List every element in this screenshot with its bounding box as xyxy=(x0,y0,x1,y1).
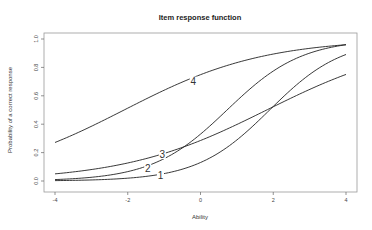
curve-label-1: 1 xyxy=(158,170,164,181)
curve-item-3 xyxy=(55,74,346,173)
x-tick-label: -4 xyxy=(53,197,58,203)
y-tick-label: 0.2 xyxy=(33,149,39,157)
x-tick-label: 2 xyxy=(272,197,275,203)
y-tick-label: 0.4 xyxy=(33,120,39,128)
curve-label-4: 4 xyxy=(190,76,196,87)
x-axis: -4-2024 xyxy=(53,192,348,203)
y-tick-label: 0.6 xyxy=(33,92,39,100)
curve-label-2: 2 xyxy=(145,163,151,174)
y-tick-label: 1.0 xyxy=(33,35,39,43)
y-axis: 0.00.20.40.60.81.0 xyxy=(33,35,44,185)
curve-item-1 xyxy=(55,54,346,180)
chart-title: Item response function xyxy=(159,13,242,22)
curve-labels-group: 1234 xyxy=(144,76,196,181)
plot-frame xyxy=(44,33,357,192)
curve-label-3: 3 xyxy=(160,149,166,160)
curve-item-2 xyxy=(55,45,346,180)
curve-item-4 xyxy=(55,45,346,143)
x-tick-label: -2 xyxy=(125,197,130,203)
y-axis-label: Probability of a correct response xyxy=(7,66,13,153)
x-tick-label: 4 xyxy=(344,197,347,203)
y-tick-label: 0.8 xyxy=(33,64,39,72)
item-response-chart: Item response function -4-2024 0.00.20.4… xyxy=(0,0,372,230)
x-tick-label: 0 xyxy=(199,197,202,203)
curves-group xyxy=(55,45,346,181)
y-tick-label: 0.0 xyxy=(33,177,39,185)
x-axis-label: Ability xyxy=(192,214,208,220)
